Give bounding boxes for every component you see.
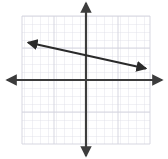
graph-figure: Coordinate plane with a linear graph — [0, 0, 168, 159]
coordinate-plane-svg — [0, 0, 168, 159]
